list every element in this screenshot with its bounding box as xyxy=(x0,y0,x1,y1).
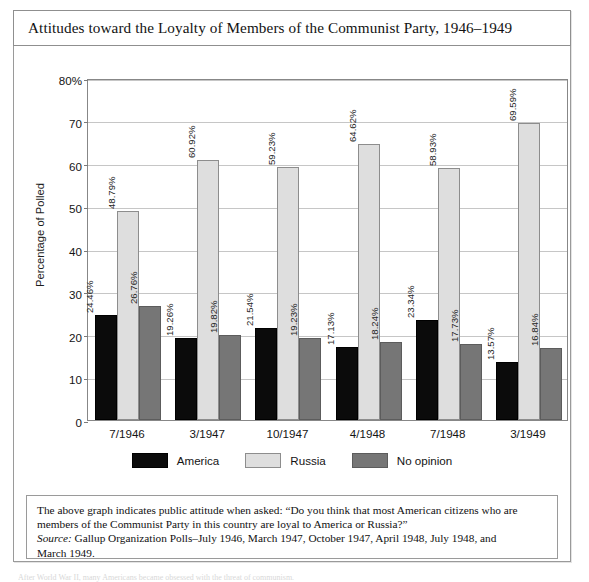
bar-russia[interactable]: 48.79% xyxy=(117,211,139,420)
plot-area: 01020304050607080%24.46%48.79%26.76%19.2… xyxy=(87,79,568,421)
legend-item-america[interactable]: America xyxy=(132,453,220,468)
y-axis-tick-label: 80% xyxy=(59,74,82,87)
legend-label: No opinion xyxy=(397,454,452,467)
bar-value-label: 17.73% xyxy=(448,310,459,343)
page-body-cutoff-text: After World War II, many Americans becam… xyxy=(18,573,438,582)
legend-swatch-icon xyxy=(132,453,168,468)
legend-label: America xyxy=(177,454,220,467)
source-label: Source: xyxy=(37,532,72,544)
bar-russia[interactable]: 64.62% xyxy=(358,144,380,420)
bar-america[interactable]: 23.34% xyxy=(416,320,438,420)
bar-group: 24.46%48.79%26.76% xyxy=(95,80,161,420)
caption-line-1: The above graph indicates public attitud… xyxy=(37,503,547,517)
y-axis-tick-mark xyxy=(84,336,88,337)
bar-no-opinion[interactable]: 18.24% xyxy=(380,342,402,420)
legend-item-russia[interactable]: Russia xyxy=(245,453,325,468)
bar-value-label: 19.26% xyxy=(164,303,175,336)
bar-group: 23.34%58.93%17.73% xyxy=(416,80,482,420)
bar-value-label: 13.57% xyxy=(485,327,496,360)
legend-swatch-icon xyxy=(352,453,388,468)
bar-russia[interactable]: 59.23% xyxy=(277,167,299,420)
bar-value-label: 16.84% xyxy=(529,313,540,346)
y-axis-tick-label: 60 xyxy=(69,159,82,172)
bar-no-opinion[interactable]: 16.84% xyxy=(540,348,562,420)
figure-title-bar: Attitudes toward the Loyalty of Members … xyxy=(13,10,571,46)
bar-no-opinion[interactable]: 19.23% xyxy=(299,338,321,420)
y-axis-tick-label: 0 xyxy=(76,416,82,429)
x-axis-tick-label: 3/1947 xyxy=(190,427,225,440)
bar-value-label: 59.23% xyxy=(266,132,277,165)
caption-source-line-2: March 1949. xyxy=(37,546,547,560)
caption-line-2: members of the Communist Party in this c… xyxy=(37,517,547,531)
legend-label: Russia xyxy=(290,454,325,467)
bar-value-label: 26.76% xyxy=(128,271,139,304)
y-axis-tick-label: 20 xyxy=(69,330,82,343)
bar-america[interactable]: 21.54% xyxy=(255,328,277,420)
bar-value-label: 69.59% xyxy=(507,88,518,121)
chart-legend: AmericaRussiaNo opinion xyxy=(14,453,570,468)
bar-no-opinion[interactable]: 26.76% xyxy=(139,306,161,420)
bar-no-opinion[interactable]: 17.73% xyxy=(460,344,482,420)
y-axis-tick-label: 50 xyxy=(69,202,82,215)
bar-value-label: 19.82% xyxy=(208,301,219,334)
source-text-1: Gallup Organization Polls–July 1946, Mar… xyxy=(72,532,497,544)
bar-no-opinion[interactable]: 19.82% xyxy=(219,335,241,420)
x-axis-tick-label: 3/1949 xyxy=(510,427,545,440)
bar-value-label: 19.23% xyxy=(288,303,299,336)
x-axis-tick-label: 7/1948 xyxy=(430,427,465,440)
bar-value-label: 18.24% xyxy=(368,307,379,340)
bar-america[interactable]: 13.57% xyxy=(496,362,518,420)
caption-source-line-1: Source: Gallup Organization Polls–July 1… xyxy=(37,531,547,545)
legend-swatch-icon xyxy=(245,453,281,468)
y-axis-tick-mark xyxy=(84,122,88,123)
bar-america[interactable]: 19.26% xyxy=(175,338,197,420)
y-axis-tick-label: 30 xyxy=(69,287,82,300)
figure-title: Attitudes toward the Loyalty of Members … xyxy=(28,19,512,37)
y-axis-tick-mark xyxy=(84,251,88,252)
bar-group: 13.57%69.59%16.84% xyxy=(496,80,562,420)
chart-region: Percentage of Polled 01020304050607080%2… xyxy=(14,47,570,487)
legend-item-no-opinion[interactable]: No opinion xyxy=(352,453,452,468)
y-axis-tick-label: 70 xyxy=(69,116,82,129)
bar-group: 21.54%59.23%19.23% xyxy=(255,80,321,420)
bar-russia[interactable]: 58.93% xyxy=(438,168,460,420)
bar-america[interactable]: 24.46% xyxy=(95,315,117,420)
bar-value-label: 64.62% xyxy=(346,109,357,142)
bar-value-label: 58.93% xyxy=(426,134,437,167)
y-axis-tick-mark xyxy=(84,422,88,423)
bar-value-label: 24.46% xyxy=(84,281,95,314)
y-axis-tick-label: 40 xyxy=(69,245,82,258)
figure-frame: Attitudes toward the Loyalty of Members … xyxy=(13,10,571,562)
bar-russia[interactable]: 60.92% xyxy=(197,160,219,420)
bar-value-label: 60.92% xyxy=(186,125,197,158)
y-axis-tick-label: 10 xyxy=(69,373,82,386)
bar-value-label: 48.79% xyxy=(106,177,117,210)
y-axis-tick-mark xyxy=(84,165,88,166)
bar-value-label: 17.13% xyxy=(324,312,335,345)
x-axis-tick-label: 4/1948 xyxy=(350,427,385,440)
x-axis-tick-label: 7/1946 xyxy=(109,427,144,440)
bar-group: 17.13%64.62%18.24% xyxy=(336,80,402,420)
caption-box: The above graph indicates public attitud… xyxy=(26,495,558,559)
x-axis-tick-label: 10/1947 xyxy=(266,427,308,440)
bar-russia[interactable]: 69.59% xyxy=(518,123,540,420)
bar-america[interactable]: 17.13% xyxy=(336,347,358,420)
y-axis-tick-mark xyxy=(84,379,88,380)
y-axis-title: Percentage of Polled xyxy=(34,165,46,305)
bar-group: 19.26%60.92%19.82% xyxy=(175,80,241,420)
bar-value-label: 21.54% xyxy=(244,293,255,326)
y-axis-tick-mark xyxy=(84,80,88,81)
y-axis-tick-mark xyxy=(84,208,88,209)
bar-value-label: 23.34% xyxy=(404,286,415,319)
